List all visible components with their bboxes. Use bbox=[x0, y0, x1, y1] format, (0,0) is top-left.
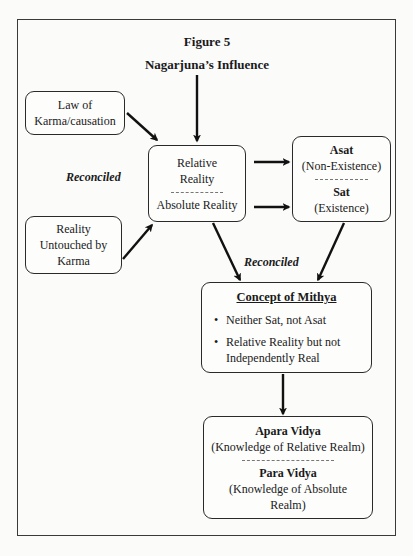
node-vidya: Apara Vidya (Knowledge of Relative Realm… bbox=[203, 416, 373, 519]
node-mithya: Concept of Mithya Neither Sat, not Asat … bbox=[201, 282, 372, 373]
node-asat-sub: (Non-Existence) bbox=[302, 158, 381, 174]
arrow-untouched-to-relative bbox=[123, 225, 152, 259]
node-absolute: Absolute Reality bbox=[157, 197, 238, 213]
bullet-item: Neither Sat, not Asat bbox=[226, 312, 361, 328]
node-relative-line2: Reality bbox=[180, 171, 215, 187]
arrow-karma-to-relative bbox=[127, 113, 157, 140]
divider bbox=[315, 179, 368, 180]
arrow-sat-to-mithya bbox=[318, 223, 344, 280]
node-sat-sub: (Existence) bbox=[314, 200, 369, 216]
node-mithya-title: Concept of Mithya bbox=[212, 289, 361, 305]
divider bbox=[242, 460, 334, 461]
bullet-item: Relative Reality but not Independently R… bbox=[226, 334, 361, 366]
node-asat-sat: Asat (Non-Existence) Sat (Existence) bbox=[292, 136, 391, 222]
node-relative-line1: Relative bbox=[177, 155, 217, 171]
node-reality-untouched: Reality Untouched by Karma bbox=[25, 216, 122, 274]
node-reality-untouched-line3: Karma bbox=[57, 253, 90, 269]
node-apara-title: Apara Vidya bbox=[255, 423, 321, 439]
edge-label-reconciled-left: Reconciled bbox=[66, 170, 121, 185]
node-reality-untouched-line2: Untouched by bbox=[40, 237, 108, 253]
node-para-title: Para Vidya bbox=[259, 465, 317, 481]
divider bbox=[171, 192, 224, 193]
node-para-sub-line1: (Knowledge of Absolute bbox=[229, 481, 347, 497]
node-asat-title: Asat bbox=[330, 142, 353, 158]
node-law-of-karma-line1: Law of bbox=[58, 97, 92, 113]
node-para-sub-line2: Realm) bbox=[270, 497, 305, 513]
node-mithya-bullets: Neither Sat, not Asat Relative Reality b… bbox=[212, 312, 361, 372]
node-relative-absolute: Relative Reality Absolute Reality bbox=[148, 145, 246, 222]
arrow-relative-to-mithya bbox=[213, 223, 240, 280]
node-sat-title: Sat bbox=[333, 184, 350, 200]
edge-label-reconciled-lower: Reconciled bbox=[244, 255, 299, 270]
node-apara-sub: (Knowledge of Relative Realm) bbox=[211, 439, 365, 455]
node-law-of-karma: Law of Karma/causation bbox=[25, 91, 125, 135]
node-reality-untouched-line1: Reality bbox=[56, 221, 91, 237]
node-law-of-karma-line2: Karma/causation bbox=[34, 113, 115, 129]
